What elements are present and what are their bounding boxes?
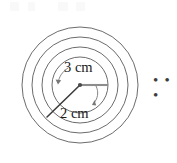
concentric-circles-figure: 3 cm 2 cm • • • xyxy=(0,0,177,163)
continuation-ellipsis: • • • xyxy=(153,73,177,103)
spacing-leader-arc xyxy=(93,86,98,104)
inner-radius-label: 3 cm xyxy=(64,59,93,75)
center-point xyxy=(78,83,82,87)
inner-radius-leader-arrowhead xyxy=(56,79,62,84)
figure-canvas: 3 cm 2 cm xyxy=(0,0,177,163)
spacing-label: 2 cm xyxy=(60,105,89,121)
